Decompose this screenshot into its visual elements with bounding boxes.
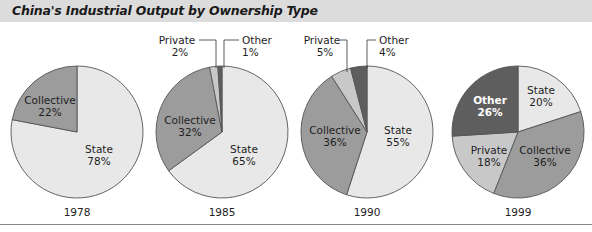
bottom-divider bbox=[0, 224, 592, 225]
label-private-pct: 18% bbox=[477, 156, 500, 168]
label-other-pct: 4% bbox=[379, 46, 396, 58]
label-private-name: Private bbox=[159, 34, 196, 46]
label-collective-pct: 32% bbox=[178, 126, 201, 138]
label-collective-name: Collective bbox=[164, 114, 216, 126]
label-collective-pct: 36% bbox=[533, 156, 556, 168]
pie-1978 bbox=[11, 66, 143, 198]
pie-1999 bbox=[452, 66, 584, 198]
label-collective-pct: 22% bbox=[38, 106, 61, 118]
label-state-name: State bbox=[527, 84, 555, 96]
label-other-name: Other bbox=[473, 94, 508, 106]
label-other-name: Other bbox=[379, 34, 409, 46]
label-collective-pct: 36% bbox=[323, 136, 346, 148]
label-collective-name: Collective bbox=[24, 94, 76, 106]
label-state-pct: 20% bbox=[529, 96, 552, 108]
label-collective-name: Collective bbox=[519, 144, 571, 156]
label-state-pct: 65% bbox=[232, 155, 255, 167]
label-state-pct: 78% bbox=[87, 155, 110, 167]
year-label-1978: 1978 bbox=[64, 206, 91, 218]
label-state-name: State bbox=[384, 124, 412, 136]
label-state-name: State bbox=[85, 143, 113, 155]
label-other-name: Other bbox=[242, 34, 272, 46]
leader-line-private bbox=[340, 40, 347, 72]
pie-1985 bbox=[156, 66, 288, 198]
label-state-pct: 55% bbox=[386, 136, 409, 148]
leader-line-other bbox=[367, 40, 376, 68]
year-label-1999: 1999 bbox=[505, 206, 532, 218]
year-label-1990: 1990 bbox=[354, 206, 381, 218]
leader-line-private bbox=[199, 40, 216, 68]
label-state-name: State bbox=[230, 143, 258, 155]
pie-charts: Collective 22% State 78% Private 2% Othe… bbox=[0, 0, 592, 232]
label-private-name: Private bbox=[471, 144, 508, 156]
year-label-1985: 1985 bbox=[209, 206, 236, 218]
label-other-pct: 26% bbox=[477, 106, 503, 118]
label-private-name: Private bbox=[304, 34, 341, 46]
label-other-pct: 1% bbox=[242, 46, 259, 58]
label-private-pct: 2% bbox=[172, 46, 189, 58]
label-collective-name: Collective bbox=[309, 124, 361, 136]
leader-line-other bbox=[224, 40, 239, 68]
label-private-pct: 5% bbox=[317, 46, 334, 58]
